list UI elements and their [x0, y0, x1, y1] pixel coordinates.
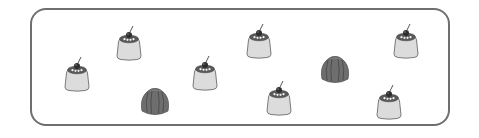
pudding-icon	[392, 23, 420, 59]
jelly-mold-icon	[139, 86, 171, 116]
pudding-icon	[191, 55, 219, 91]
pudding-icon	[245, 23, 273, 59]
pudding-icon	[115, 25, 143, 61]
jelly-mold-icon	[319, 54, 351, 84]
pudding-icon	[375, 84, 403, 120]
pudding-icon	[63, 56, 91, 92]
pudding-icon	[265, 80, 293, 116]
